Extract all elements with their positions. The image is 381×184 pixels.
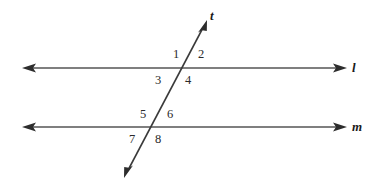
line-m <box>22 122 347 131</box>
line-t-segment <box>129 29 203 169</box>
angle-label-2: 2 <box>198 48 204 61</box>
line-t <box>124 20 207 178</box>
angle-label-3: 3 <box>155 74 161 87</box>
line-label-l: l <box>352 61 356 74</box>
line-t-arrowhead-bottom <box>124 165 133 178</box>
angle-label-8: 8 <box>155 133 161 146</box>
angle-label-4: 4 <box>185 74 191 87</box>
line-label-t: t <box>210 9 214 22</box>
geometry-canvas <box>0 0 381 184</box>
angle-label-5: 5 <box>140 108 146 121</box>
geometry-diagram: l m t 1 2 3 4 5 6 7 8 <box>0 0 381 184</box>
angle-label-7: 7 <box>129 133 135 146</box>
line-l <box>22 63 347 72</box>
angle-label-1: 1 <box>173 48 179 61</box>
line-t-arrowhead-top <box>198 20 207 33</box>
angle-label-6: 6 <box>167 108 173 121</box>
line-label-m: m <box>352 120 362 133</box>
